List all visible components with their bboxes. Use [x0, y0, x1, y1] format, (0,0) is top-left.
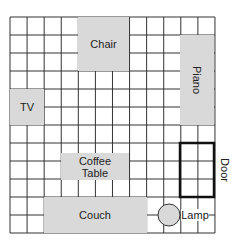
floor-plan: Chair TV Piano Coffee Table Couch Door L… [0, 0, 240, 240]
door-label: Door [219, 158, 231, 182]
door [180, 143, 214, 197]
lamp [158, 204, 180, 226]
couch-label: Couch [79, 209, 111, 221]
coffee-table-label-1: Coffee [79, 155, 111, 167]
lamp-label: Lamp [181, 209, 209, 221]
chair-label: Chair [90, 38, 117, 50]
tv-label: TV [20, 101, 35, 113]
piano-label: Piano [191, 66, 203, 94]
coffee-table-label-2: Table [82, 167, 108, 179]
